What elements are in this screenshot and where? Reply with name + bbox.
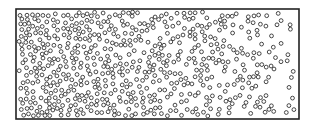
particle [108,106,112,110]
particle [292,108,296,112]
particle [215,42,219,46]
particle [158,42,162,46]
particle [121,11,125,15]
particle [232,48,236,52]
particle [164,12,168,16]
particle [24,86,28,90]
particle [270,34,274,38]
particle [89,96,93,100]
particle [70,51,74,55]
particle [149,108,153,112]
particle [74,36,78,40]
particle [179,50,183,54]
particle [191,27,195,31]
particle [158,37,162,41]
particle [99,57,103,61]
particle [247,30,251,34]
particle [76,51,80,55]
particle [231,23,235,27]
particle [111,41,115,45]
particle [118,62,122,66]
particle [251,56,255,60]
particle [127,53,131,57]
particle [259,22,263,26]
particle [103,31,107,35]
particle [210,75,214,79]
particle [110,67,114,71]
particle [62,72,66,76]
particle [228,45,232,49]
particle [122,39,126,43]
particle [158,88,162,92]
particle [40,25,44,29]
particle [38,38,42,42]
particle [37,114,41,118]
particle [173,72,177,76]
particle [205,26,209,30]
particle [124,100,128,104]
particle [27,27,31,31]
particle [196,23,200,27]
particle [244,101,248,105]
particle [114,64,118,68]
particle [48,102,52,106]
particle [147,61,151,65]
particle [86,91,90,95]
particle [88,50,92,54]
particle [41,14,45,18]
particle [158,106,162,110]
particle [52,57,56,61]
particle [56,28,60,32]
particle [33,45,37,49]
particle [214,61,218,65]
particle [272,110,276,114]
particle [55,74,59,78]
particle [32,114,36,118]
particle [145,75,149,79]
particle [193,61,197,65]
particle [145,86,149,90]
particle [88,28,92,32]
particle [120,89,124,93]
particle [49,84,53,88]
particle [260,42,264,46]
particle [176,53,180,57]
particle [52,70,56,74]
particle [220,52,224,56]
particle [33,101,37,105]
particle [88,34,92,38]
particle [151,21,155,25]
particle [263,110,267,114]
particle [31,13,35,17]
particle [79,108,83,112]
particle [74,109,78,113]
particle [31,81,35,85]
particle [26,18,30,22]
particle [34,31,38,35]
particle [66,27,70,31]
particle [44,99,48,103]
particle [104,84,108,88]
particle [287,104,291,108]
particle [216,47,220,51]
particle [70,17,74,21]
particle [233,70,237,74]
particle [211,94,215,98]
particle [146,24,150,28]
particle [130,32,134,36]
particle [44,33,48,37]
particle [217,84,221,88]
particle [84,51,88,55]
particle [44,51,48,55]
particle [166,114,170,118]
particle [181,33,185,37]
particle [153,98,157,102]
particle [157,57,161,61]
particle [29,40,33,44]
particle [52,24,56,28]
particle [213,37,217,41]
particle [42,67,46,71]
particle [54,89,58,93]
particle [59,94,63,98]
particle [264,94,268,98]
